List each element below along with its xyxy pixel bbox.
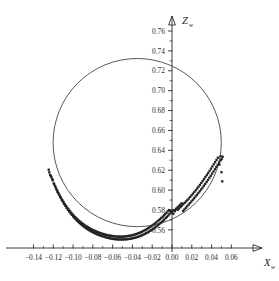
data-point (212, 170, 214, 172)
fitted-circle-curve (53, 58, 221, 226)
data-point (213, 163, 215, 165)
data-point (214, 168, 216, 170)
x-axis-title-subscript: w (271, 264, 275, 270)
y-tick-label: 0.58 (152, 206, 165, 215)
y-tick-label: 0.64 (152, 146, 165, 155)
data-point (207, 172, 209, 174)
fitted-circle (53, 58, 221, 226)
figure-container: −0.14−0.12−0.10−0.08−0.06−0.04−0.020.000… (0, 0, 279, 281)
data-point (55, 186, 57, 188)
data-point (220, 155, 222, 157)
data-point (53, 183, 55, 185)
data-point (214, 161, 216, 163)
y-tick-label: 0.68 (152, 106, 165, 115)
data-point (48, 171, 50, 173)
x-tick-label: −0.12 (45, 253, 62, 262)
data-point (217, 157, 219, 159)
data-point (220, 171, 222, 173)
data-point (211, 172, 213, 174)
data-point (215, 159, 217, 161)
y-tick-label: 0.74 (152, 47, 165, 56)
data-point (221, 180, 223, 182)
x-tick-labels: −0.14−0.12−0.10−0.08−0.06−0.04−0.020.000… (25, 253, 238, 262)
data-point (211, 165, 213, 167)
data-point (204, 183, 206, 185)
y-tick-label: 0.72 (152, 66, 165, 75)
y-tick-label: 0.66 (152, 126, 165, 135)
data-point (50, 175, 52, 177)
x-tick-label: 0.06 (225, 253, 238, 262)
y-tick-label: 0.60 (152, 186, 165, 195)
data-point (62, 201, 64, 203)
data-point (200, 182, 202, 184)
y-axis-title: Z w (182, 15, 193, 28)
x-tick-label: 0.02 (185, 253, 198, 262)
y-tick-label: 0.56 (152, 226, 165, 235)
data-point (59, 194, 61, 196)
scatter-plot-circle-fit: −0.14−0.12−0.10−0.08−0.06−0.04−0.020.000… (0, 0, 279, 281)
data-point (65, 205, 67, 207)
data-point (208, 177, 210, 179)
x-tick-label: −0.10 (65, 253, 82, 262)
data-point (57, 192, 59, 194)
data-point (56, 189, 58, 191)
y-ticks-layer (168, 31, 173, 230)
data-point (206, 174, 208, 176)
x-tick-label: 0.04 (205, 253, 218, 262)
data-point (218, 162, 220, 164)
x-tick-label: 0.00 (166, 253, 179, 262)
x-tick-label: −0.08 (84, 253, 101, 262)
data-point (199, 184, 201, 186)
data-point (201, 187, 203, 189)
data-point (51, 178, 53, 180)
x-axis-title: X w (263, 257, 275, 270)
y-axis-title-text: Z (182, 15, 188, 26)
data-point (203, 178, 205, 180)
x-tick-label: −0.04 (124, 253, 141, 262)
y-tick-labels: 0.560.580.600.620.640.660.680.700.720.74… (152, 27, 165, 235)
data-point (210, 175, 212, 177)
axes-layer (6, 16, 262, 252)
x-axis-title-text: X (263, 257, 271, 268)
data-point (218, 164, 220, 166)
data-point (202, 180, 204, 182)
data-point (222, 156, 224, 158)
x-tick-label: −0.02 (144, 253, 161, 262)
y-tick-label: 0.76 (152, 27, 165, 36)
data-point (48, 169, 50, 171)
data-point (210, 167, 212, 169)
data-point (204, 176, 206, 178)
data-point (215, 166, 217, 168)
data-point (61, 199, 63, 201)
data-point (207, 179, 209, 181)
x-tick-label: −0.14 (25, 253, 42, 262)
y-axis-title-subscript: w (189, 22, 193, 28)
data-point (60, 197, 62, 199)
data-point (221, 158, 223, 160)
data-point (205, 181, 207, 183)
x-ticks-layer (34, 245, 232, 249)
y-tick-label: 0.62 (152, 166, 165, 175)
y-tick-label: 0.70 (152, 86, 165, 95)
data-point (208, 170, 210, 172)
x-tick-label: −0.06 (104, 253, 121, 262)
data-point (171, 211, 173, 213)
